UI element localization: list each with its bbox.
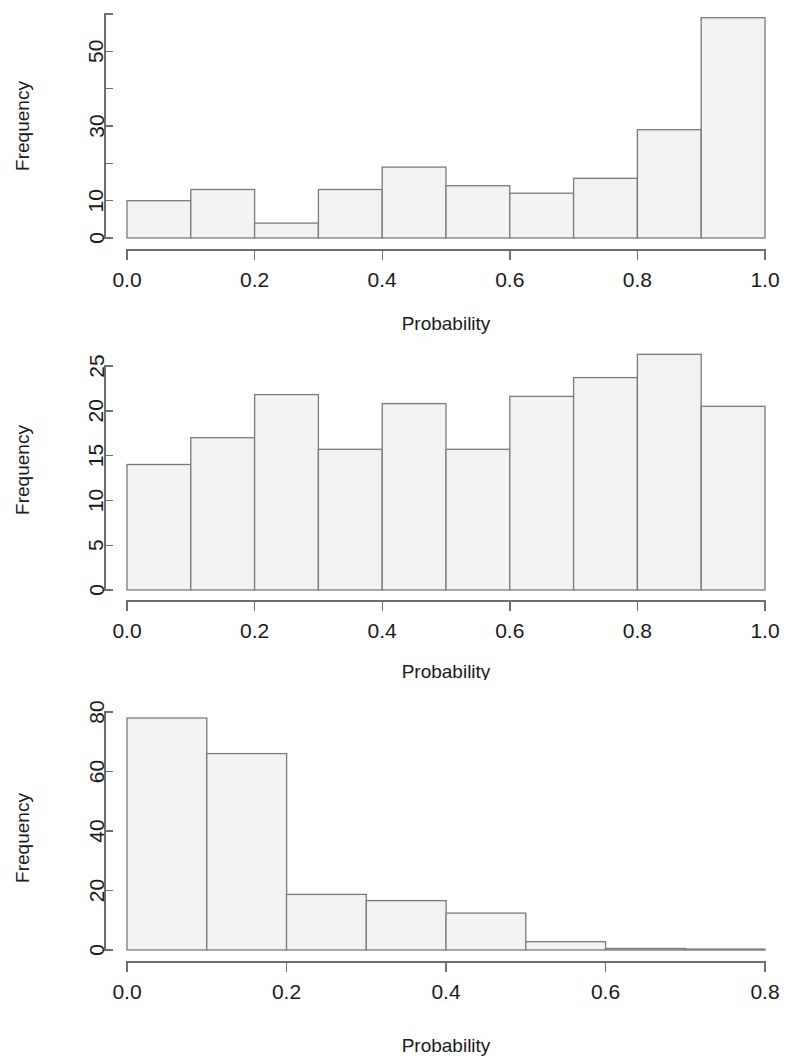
y-axis-tick-label: 0: [85, 584, 108, 596]
x-axis-title: Probability: [402, 1035, 491, 1056]
histogram-canvas-3: 020406080Frequency0.00.20.40.60.8Probabi…: [0, 680, 785, 1062]
histogram-panel-1: 0103050Frequency0.00.20.40.60.81.0Probab…: [0, 0, 785, 340]
histogram-bar: [446, 449, 510, 590]
histogram-bar: [318, 449, 382, 590]
y-axis-tick-label: 15: [85, 444, 108, 467]
y-axis-tick-label: 30: [85, 114, 108, 137]
histogram-bar: [127, 201, 191, 238]
y-axis-tick-label: 5: [85, 539, 108, 551]
histogram-bar: [127, 465, 191, 591]
x-axis: 0.00.20.40.60.8: [112, 962, 779, 1003]
x-axis-tick-label: 0.8: [623, 268, 652, 291]
histogram-bar: [382, 167, 446, 238]
histogram-bar: [510, 193, 574, 238]
x-axis-tick-label: 0.8: [623, 619, 652, 642]
y-axis-tick-label: 50: [85, 40, 108, 63]
x-axis-tick-label: 0.0: [112, 268, 141, 291]
histogram-bar: [318, 190, 382, 239]
x-axis-tick-label: 0.4: [368, 268, 398, 291]
bars-group: [127, 18, 765, 238]
histogram-bar: [701, 406, 765, 590]
histogram-bar: [446, 186, 510, 238]
x-axis-tick-label: 0.2: [240, 268, 269, 291]
x-axis-title: Probability: [402, 661, 491, 680]
bars-group: [127, 354, 765, 590]
histogram-bar: [366, 901, 446, 950]
histogram-bar: [287, 894, 367, 950]
x-axis-tick-label: 0.4: [431, 980, 461, 1003]
x-axis-line: [127, 601, 765, 607]
histogram-bar: [526, 942, 606, 950]
histogram-panel-2: 0510152025Frequency0.00.20.40.60.81.0Pro…: [0, 340, 785, 680]
figure-root: 0103050Frequency0.00.20.40.60.81.0Probab…: [0, 0, 785, 1062]
histogram-bar: [510, 396, 574, 590]
y-axis: 020406080: [85, 700, 114, 956]
y-axis-tick-label: 80: [85, 700, 108, 723]
y-axis-tick-label: 0: [85, 944, 108, 956]
y-axis: 0103050: [85, 14, 114, 244]
histogram-panel-3: 020406080Frequency0.00.20.40.60.8Probabi…: [0, 680, 785, 1062]
x-axis-tick-label: 0.6: [495, 619, 524, 642]
x-axis-tick-label: 0.6: [495, 268, 524, 291]
histogram-bar: [637, 130, 701, 238]
y-axis-tick-label: 20: [85, 879, 108, 902]
histogram-bar: [191, 438, 255, 590]
histogram-bar: [574, 378, 638, 590]
histogram-bar: [685, 949, 765, 950]
x-axis-tick-label: 0.8: [750, 980, 779, 1003]
x-axis-tick-label: 0.2: [240, 619, 269, 642]
y-axis: 0510152025: [85, 354, 114, 596]
y-axis-tick-label: 60: [85, 760, 108, 783]
y-axis-title: Frequency: [12, 793, 33, 883]
histogram-bar: [382, 404, 446, 590]
y-axis-title: Frequency: [12, 425, 33, 515]
histogram-bar: [701, 18, 765, 238]
histogram-bar: [191, 190, 255, 239]
y-axis-tick-label: 10: [85, 189, 108, 212]
histogram-bar: [574, 178, 638, 238]
y-axis-tick-label: 40: [85, 819, 108, 842]
y-axis-tick-label: 20: [85, 399, 108, 422]
x-axis-tick-label: 1.0: [750, 268, 779, 291]
histogram-bar: [127, 718, 207, 950]
histogram-bar: [446, 913, 526, 950]
x-axis-tick-label: 0.0: [112, 619, 141, 642]
histogram-canvas-1: 0103050Frequency0.00.20.40.60.81.0Probab…: [0, 0, 785, 340]
histogram-bar: [255, 223, 319, 238]
x-axis-tick-label: 1.0: [750, 619, 779, 642]
x-axis: 0.00.20.40.60.81.0: [112, 601, 779, 642]
x-axis-tick-label: 0.2: [272, 980, 301, 1003]
x-axis-tick-label: 0.4: [368, 619, 398, 642]
x-axis: 0.00.20.40.60.81.0: [112, 250, 779, 291]
x-axis-tick-label: 0.6: [591, 980, 620, 1003]
x-axis-line: [127, 250, 765, 256]
x-axis-tick-label: 0.0: [112, 980, 141, 1003]
y-axis-tick-label: 10: [85, 489, 108, 512]
x-axis-title: Probability: [402, 313, 491, 334]
y-axis-title: Frequency: [12, 81, 33, 171]
y-axis-tick-label: 25: [85, 354, 108, 377]
histogram-bar: [637, 354, 701, 590]
histogram-bar: [207, 754, 287, 950]
y-axis-tick-label: 0: [85, 232, 108, 244]
histogram-bar: [255, 395, 319, 590]
histogram-canvas-2: 0510152025Frequency0.00.20.40.60.81.0Pro…: [0, 340, 785, 680]
bars-group: [127, 718, 765, 950]
histogram-bar: [606, 949, 686, 951]
